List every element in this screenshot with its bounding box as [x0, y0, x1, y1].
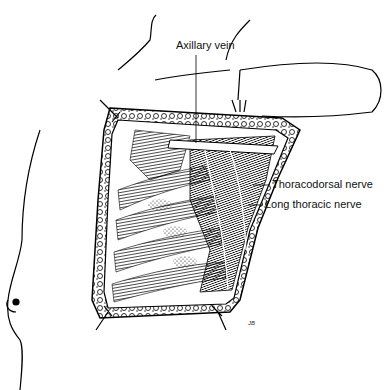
label-axillary-vein: Axillary vein: [176, 40, 235, 51]
torso-outline: [7, 130, 40, 390]
arm-outline: [118, 15, 381, 117]
label-long-thoracic-nerve: Long thoracic nerve: [265, 199, 362, 210]
artist-signature: JB: [248, 320, 255, 326]
label-thoracodorsal-nerve: Thoracodorsal nerve: [272, 179, 373, 190]
anatomy-illustration: [0, 0, 388, 390]
